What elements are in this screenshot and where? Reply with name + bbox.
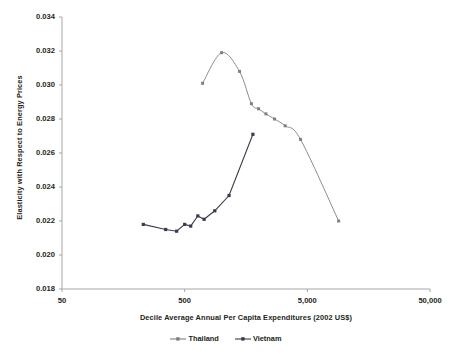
x-axis-tick-label: 50 [32, 296, 92, 305]
legend-item-thailand[interactable]: Thailand [170, 334, 218, 343]
data-point-marker [213, 209, 216, 212]
legend-line-marker-icon [170, 335, 186, 343]
series-line [203, 52, 339, 221]
data-point-marker [264, 112, 267, 115]
data-point-marker [220, 51, 223, 54]
y-axis-tick-label: 0.018 [15, 284, 55, 293]
data-point-marker [250, 102, 253, 105]
data-point-marker [284, 124, 287, 127]
chart-container: 0.0180.0200.0220.0240.0260.0280.0300.032… [0, 0, 452, 360]
data-point-marker [238, 70, 241, 73]
data-point-marker [201, 82, 204, 85]
data-point-marker [164, 228, 167, 231]
legend-item-label: Thailand [188, 334, 218, 343]
plot-area [0, 0, 452, 360]
data-point-marker [202, 218, 205, 221]
data-point-marker [142, 223, 145, 226]
legend-item-label: Vietnam [253, 334, 282, 343]
data-point-marker [227, 194, 230, 197]
data-point-marker [299, 138, 302, 141]
data-series-layer [142, 51, 340, 233]
data-point-marker [196, 214, 199, 217]
legend-line-marker-icon [235, 335, 251, 343]
data-point-marker [337, 220, 340, 223]
series-thailand [201, 51, 340, 222]
data-point-marker [257, 107, 260, 110]
series-vietnam [142, 133, 255, 233]
x-axis-tick-label: 500 [155, 296, 215, 305]
x-axis-tick-label: 5,000 [277, 296, 337, 305]
y-axis-title: Elasticity with Respect to Energy Prices [15, 43, 24, 253]
legend-item-vietnam[interactable]: Vietnam [235, 334, 282, 343]
data-point-marker [183, 223, 186, 226]
y-axis-tick-label: 0.034 [15, 12, 55, 21]
data-point-marker [189, 225, 192, 228]
x-axis-tick-label: 50,000 [400, 296, 452, 305]
data-point-marker [273, 118, 276, 121]
data-point-marker [175, 230, 178, 233]
x-axis-title: Decile Average Annual Per Capita Expendi… [62, 313, 430, 322]
chart-legend: ThailandVietnam [0, 334, 452, 343]
data-point-marker [251, 133, 254, 136]
